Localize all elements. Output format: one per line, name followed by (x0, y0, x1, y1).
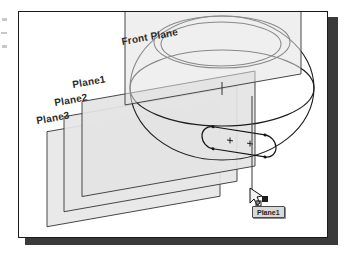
slot-endpoint-handle[interactable] (264, 133, 267, 136)
front-plane-surface[interactable] (125, 0, 301, 105)
plane-1-label: Plane1 (71, 73, 106, 90)
plane-tooltip[interactable]: Plane1 (252, 206, 285, 218)
tooltip-label: Plane1 (257, 208, 280, 217)
cad-illustration: Front Plane Plane1 Plane2 Plane3 (0, 0, 347, 262)
figure-canvas: Front Plane Plane1 Plane2 Plane3 Pl (0, 0, 347, 262)
front-plane[interactable] (125, 0, 301, 105)
slot-endpoint-handle[interactable] (264, 155, 267, 158)
